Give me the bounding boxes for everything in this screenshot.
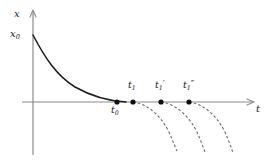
tick-label-t1-double-prime-primes: ″ [191,79,194,89]
marker-dot-t1-prime [158,99,163,104]
dashed-branch-t1 [133,102,177,151]
tick-label-t1-prime: t1′ [155,80,165,91]
t-axis-label-base: t [256,103,260,114]
initial-value-sub: 0 [16,33,20,41]
tick-label-t0: t0 [111,105,119,116]
plot-svg [0,0,273,164]
marker-dot-t1 [130,99,135,104]
y-axis-label-base: x [14,8,20,19]
tick-label-t1-sub: 1 [132,84,136,91]
initial-value-label: x0 [10,28,20,41]
dashed-branch-t1-double-prime [189,102,233,153]
t-axis-label: t [256,103,260,116]
tick-label-t1-prime-primes: ′ [163,79,165,89]
marker-dot-t1-double-prime [186,99,191,104]
tick-label-t1: t1 [128,80,136,91]
tick-label-t0-sub: 0 [115,109,119,116]
tick-label-t1-double-prime: t1″ [183,80,194,91]
y-axis-label: x [14,8,20,21]
dashed-branch-t1-prime [161,102,205,152]
figure-canvas: x x0 t t0 t1 t1′ t1″ [0,0,273,164]
solid-decay-curve [33,35,126,102]
marker-dot-t0 [114,99,119,104]
